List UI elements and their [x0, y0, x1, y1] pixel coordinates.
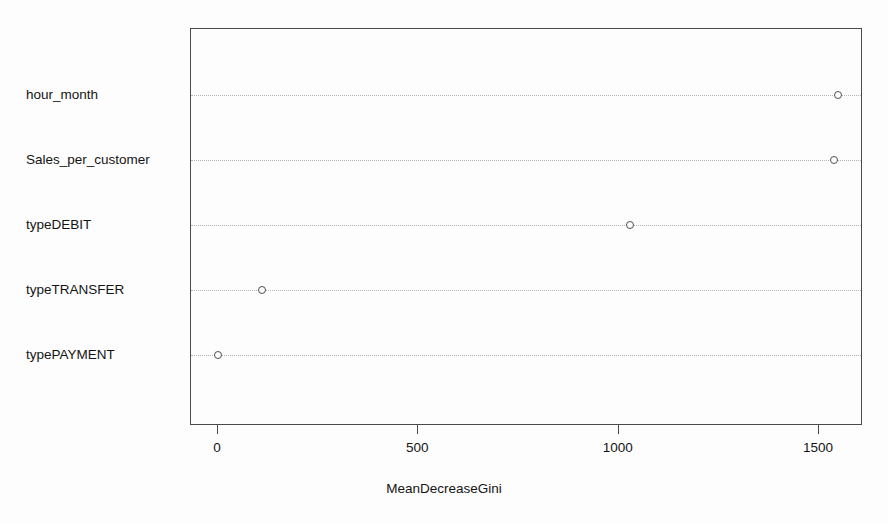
data-point	[214, 351, 222, 359]
gridline-row-typedebit	[191, 225, 861, 226]
x-axis-title: MeanDecreaseGini	[0, 481, 888, 496]
x-tick-label: 0	[213, 440, 221, 455]
category-label-sales-per-customer: Sales_per_customer	[26, 153, 150, 167]
variable-importance-dotchart: hour_month Sales_per_customer typeDEBIT …	[0, 0, 888, 524]
x-tick-mark	[217, 425, 218, 434]
gridline-row-typetransfer	[191, 290, 861, 291]
x-tick-label: 1500	[803, 440, 833, 455]
chart-title	[0, 0, 888, 2]
x-tick-mark	[618, 425, 619, 434]
x-tick-mark	[818, 425, 819, 434]
gridline-row-hour-month	[191, 95, 861, 96]
category-label-typepayment: typePAYMENT	[26, 348, 115, 362]
category-label-hour-month: hour_month	[26, 88, 98, 102]
category-label-typetransfer: typeTRANSFER	[26, 283, 124, 297]
data-point	[258, 286, 266, 294]
category-label-typedebit: typeDEBIT	[26, 218, 91, 232]
x-tick-label: 1000	[603, 440, 633, 455]
data-point	[830, 156, 838, 164]
x-tick-label: 500	[406, 440, 429, 455]
data-point	[626, 221, 634, 229]
plot-area-frame	[190, 28, 862, 425]
x-tick-mark	[417, 425, 418, 434]
data-point	[834, 91, 842, 99]
gridline-row-sales-per-customer	[191, 160, 861, 161]
gridline-row-typepayment	[191, 355, 861, 356]
